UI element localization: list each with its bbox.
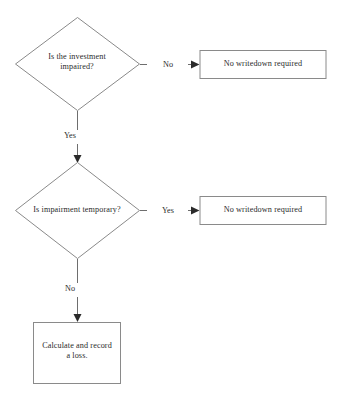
decision-node-investment-impaired[interactable] <box>16 18 140 111</box>
flowchart-canvas: Is the investment impaired? No No writed… <box>0 0 341 402</box>
arrowhead-down-to-outcome3 <box>74 314 82 322</box>
edge-label-yes-decision2: Yes <box>148 206 188 215</box>
edge-label-no-decision2: No <box>52 284 88 293</box>
outcome-box-no-writedown-top[interactable] <box>200 51 326 79</box>
decision-node-impairment-temporary[interactable] <box>16 163 140 259</box>
outcome-box-calculate-loss[interactable] <box>34 323 121 384</box>
outcome-box-no-writedown-bottom[interactable] <box>200 197 326 225</box>
edge-label-no-decision1: No <box>148 60 188 69</box>
edge-label-yes-decision1: Yes <box>52 131 88 140</box>
arrowhead-right-to-outcome1 <box>191 61 200 69</box>
arrowhead-right-to-outcome2 <box>191 207 200 215</box>
arrowhead-down-to-decision2 <box>74 155 82 163</box>
